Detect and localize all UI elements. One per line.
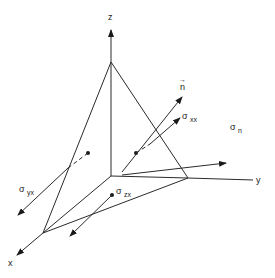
edge-apex-y [111,62,188,178]
normal-n-arrow [122,97,182,172]
sigma-n-subscript: n [238,127,242,134]
x-axis-label: x [8,258,13,268]
y-axis-label: y [256,175,261,185]
edge-origin-y [111,176,188,178]
sigma-n-arrow [122,163,226,175]
normal-n-accent: → [179,76,186,83]
edge-x-origin [43,176,111,233]
sigma-zx-subscript: zx [124,191,132,198]
stress-tetrahedron-diagram: z y x σ yx σ zx n → [0,0,275,278]
sigma-n-symbol: σ [230,122,236,132]
inclined-face-vectors: n → σ xx σ n [122,76,242,175]
sigma-yx-subscript: yx [27,189,35,197]
x-axis: x [8,233,43,268]
sigma-zx-symbol: σ [116,186,122,196]
z-axis: z [108,12,113,176]
z-axis-label: z [108,12,113,22]
sigma-yx-symbol: σ [19,184,25,194]
normal-n-label: n [180,82,185,92]
y-axis: y [188,175,261,185]
edge-apex-x [43,62,111,233]
sigma-xx-symbol: σ [182,111,188,121]
sigma-xx-subscript: xx [190,116,198,123]
tetrahedron [43,62,188,233]
